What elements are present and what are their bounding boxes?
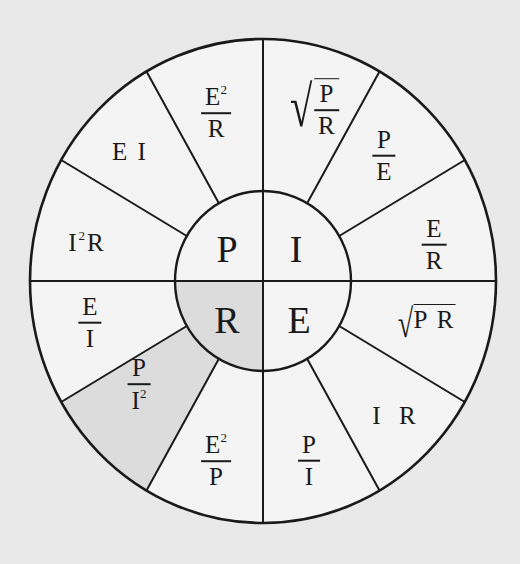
- numerator: P: [373, 127, 395, 152]
- exponent: 2: [140, 386, 147, 401]
- wheel-graphic: [0, 0, 520, 564]
- numerator: P: [315, 81, 337, 106]
- denominator: R: [204, 116, 229, 141]
- denominator: R: [314, 113, 339, 138]
- fraction-bar: [128, 383, 151, 385]
- numerator: P: [298, 432, 320, 457]
- formula-p-over-i: P I: [298, 432, 320, 489]
- fraction-bar: [78, 322, 101, 324]
- ohms-law-wheel: P I R E E2 R E I I2R √ P R P: [0, 0, 520, 564]
- numerator: P: [128, 355, 150, 380]
- formula-e-over-i: E I: [78, 294, 101, 351]
- center-letter-i: I: [290, 230, 303, 268]
- numerator: E: [78, 294, 101, 319]
- sqrt-icon: √: [398, 304, 413, 344]
- factor: R: [87, 229, 106, 256]
- formula-i2r: I2R: [68, 229, 106, 255]
- denominator: R: [422, 247, 447, 272]
- formula-e2-over-r: E2 R: [201, 83, 231, 141]
- denominator: I: [301, 463, 317, 488]
- numerator: E: [205, 83, 220, 110]
- formula-ei: E I: [112, 139, 148, 164]
- exponent: 2: [220, 430, 227, 445]
- numerator: E: [422, 216, 445, 241]
- formula-ir: I R: [372, 403, 418, 428]
- denominator: E: [372, 158, 395, 183]
- formula-p-over-e: P E: [372, 127, 395, 184]
- fraction-bar: [314, 109, 339, 111]
- fraction-bar: [298, 460, 320, 462]
- formula-e-over-r: E R: [422, 216, 447, 273]
- fraction-bar: [372, 155, 395, 157]
- exponent: 2: [79, 228, 88, 243]
- sqrt-icon: √: [290, 78, 312, 138]
- formula-sqrt-pr: √ P R: [395, 304, 456, 344]
- formula-e2-over-p: E2 P: [201, 431, 231, 489]
- center-letter-e: E: [287, 301, 310, 339]
- fraction-bar: [201, 112, 231, 114]
- denominator: P: [205, 464, 227, 489]
- radicand: P R: [414, 304, 456, 344]
- center-letter-p: P: [216, 230, 237, 268]
- center-letter-r: R: [214, 301, 239, 339]
- fraction-bar: [201, 460, 231, 462]
- base: I: [68, 229, 78, 256]
- formula-sqrt-p-over-r: √ P R: [285, 78, 339, 138]
- numerator: E: [205, 431, 220, 458]
- fraction-bar: [422, 244, 447, 246]
- exponent: 2: [220, 82, 227, 97]
- denominator: I: [82, 325, 98, 350]
- formula-p-over-i2: P I2: [128, 355, 151, 413]
